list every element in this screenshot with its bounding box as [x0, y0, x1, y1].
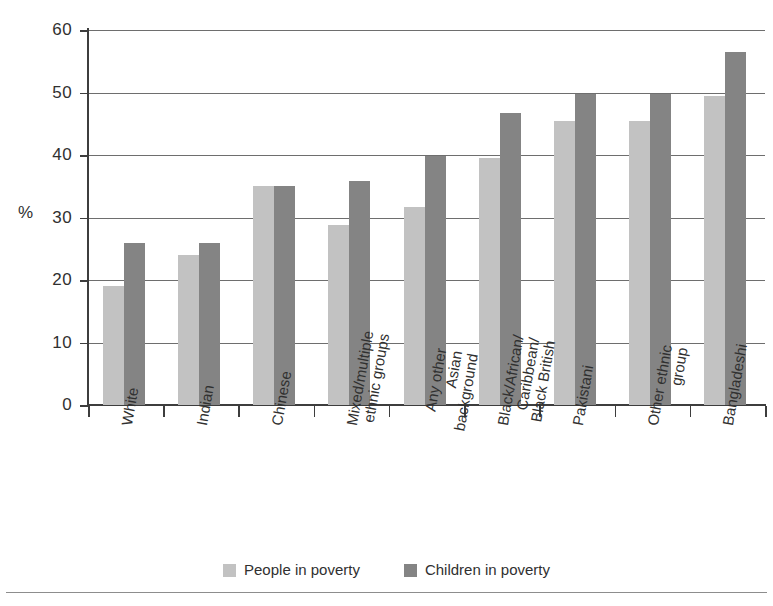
- x-tick-mark: [765, 406, 767, 417]
- legend-swatch: [404, 564, 417, 577]
- x-tick-mark: [314, 406, 316, 417]
- gridline: [88, 30, 765, 31]
- bar: [479, 158, 500, 406]
- bar: [124, 243, 145, 406]
- bar: [253, 186, 274, 405]
- chart-legend: People in povertyChildren in poverty: [0, 560, 773, 579]
- bar: [554, 121, 575, 405]
- y-tick-label: 30: [30, 208, 72, 228]
- x-tick-mark: [238, 406, 240, 417]
- bar: [178, 255, 199, 405]
- footer-rule: [6, 592, 767, 593]
- bar: [103, 286, 124, 405]
- poverty-by-ethnicity-bar-chart: % 0102030405060 WhiteIndianChineseMixed/…: [0, 0, 773, 606]
- x-tick-mark: [88, 406, 90, 417]
- y-tick-label: 20: [30, 270, 72, 290]
- y-tick-label: 0: [30, 395, 72, 415]
- y-axis-line: [87, 28, 89, 407]
- x-tick-mark: [615, 406, 617, 417]
- y-tick-label: 60: [30, 20, 72, 40]
- legend-label: People in poverty: [244, 561, 360, 578]
- gridline: [88, 93, 765, 94]
- legend-label: Children in poverty: [425, 561, 550, 578]
- y-tick-label: 10: [30, 333, 72, 353]
- y-tick-label: 40: [30, 145, 72, 165]
- bar: [704, 96, 725, 405]
- bar: [404, 207, 425, 405]
- x-tick-mark: [690, 406, 692, 417]
- bar: [199, 243, 220, 406]
- x-tick-mark: [389, 406, 391, 417]
- legend-item: Children in poverty: [404, 561, 550, 579]
- legend-item: People in poverty: [223, 561, 360, 579]
- legend-swatch: [223, 564, 236, 577]
- bar: [629, 121, 650, 405]
- y-tick-label: 50: [30, 83, 72, 103]
- bar: [575, 94, 596, 405]
- x-tick-mark: [163, 406, 165, 417]
- bar: [328, 225, 349, 405]
